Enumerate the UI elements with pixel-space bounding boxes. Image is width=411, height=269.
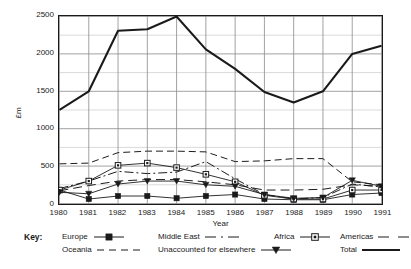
legend-item-label: Total	[340, 243, 357, 256]
y-tick-label: 0	[24, 200, 54, 208]
x-tick-label: 1991	[366, 208, 400, 217]
y-tick-label: 500	[24, 162, 54, 170]
legend-item-swatch	[96, 243, 142, 256]
legend-item-label: Middle East	[158, 230, 200, 243]
plot-area	[58, 15, 383, 205]
legend-item-swatch	[259, 243, 293, 256]
data-series-lines	[59, 16, 382, 204]
chart-figure: £m 05001000150020002500 1980198119821983…	[0, 0, 411, 269]
legend-item-label: Unaccounted for elsewhere	[158, 243, 255, 256]
y-tick-label: 1500	[24, 87, 54, 95]
series-total	[59, 16, 381, 110]
y-tick-label: 2000	[24, 49, 54, 57]
series-middle-east	[59, 162, 381, 199]
legend-item-label: Oceania	[62, 243, 92, 256]
x-axis-title: Year	[58, 219, 383, 228]
series-oceania	[59, 151, 381, 185]
legend-item-swatch	[298, 230, 332, 243]
legend-item-label: Europe	[62, 230, 88, 243]
legend-item-label: Americas	[340, 230, 373, 243]
y-tick-label: 2500	[24, 11, 54, 19]
legend-item-swatch	[361, 243, 401, 256]
chart-legend: Key: EuropeMiddle EastAfricaAmericasOcea…	[0, 229, 411, 267]
legend-item-swatch	[204, 230, 244, 243]
legend-item-swatch	[377, 230, 411, 243]
legend-item-swatch	[92, 230, 126, 243]
series-europe	[59, 187, 382, 202]
y-tick-label: 1000	[24, 124, 54, 132]
legend-item-label: Africa	[274, 230, 294, 243]
y-axis-tick-labels: 05001000150020002500	[22, 0, 54, 220]
legend-title: Key:	[24, 232, 42, 242]
